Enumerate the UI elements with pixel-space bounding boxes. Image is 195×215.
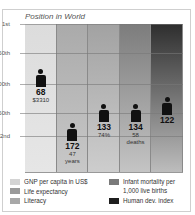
y-tick-label: 1st xyxy=(2,21,10,27)
marker-human-dev-index: 122 xyxy=(151,97,183,125)
column-infant-mortality xyxy=(120,24,152,172)
legend-label-line1: Infant mortality per xyxy=(123,178,175,185)
legend-label-line2: 1,000 live births xyxy=(123,187,175,194)
marker-gnp: 68 $3310 xyxy=(25,69,57,104)
person-icon xyxy=(36,69,46,87)
rank-value: 122 xyxy=(151,116,183,125)
y-tick-label: 50th xyxy=(0,50,10,56)
gridline-1st xyxy=(20,24,183,25)
legend-label: GNP per capita in US$ xyxy=(24,178,88,185)
legend-swatch xyxy=(10,188,20,194)
legend-swatch xyxy=(10,179,20,185)
rank-value: 133 xyxy=(88,123,120,132)
legend-item-literacy: Literacy xyxy=(10,197,46,204)
person-icon xyxy=(67,123,77,141)
y-tick-label: 192nd xyxy=(0,133,10,139)
legend-swatch xyxy=(109,179,119,185)
rank-annotation-unit: years xyxy=(57,158,89,165)
legend-swatch xyxy=(109,198,119,204)
legend-label: Literacy xyxy=(24,197,46,204)
legend-label: Life expectancy xyxy=(24,188,68,195)
y-tick-label: 100th xyxy=(0,81,10,87)
legend-label: Human dev. index xyxy=(123,197,173,204)
legend-swatch xyxy=(10,198,20,204)
marker-life-expectancy: 172 47 years xyxy=(57,123,89,164)
column-literacy xyxy=(88,24,120,172)
plot-area: 1st 50th 100th 150th 192nd 68 $3310 172 … xyxy=(25,24,183,172)
chart-title: Position in World xyxy=(25,12,85,21)
marker-infant-mortality: 134 58 deaths xyxy=(120,104,152,145)
person-icon xyxy=(162,97,172,115)
person-icon xyxy=(99,104,109,122)
marker-literacy: 133 74% xyxy=(88,104,120,139)
rank-annotation: 74% xyxy=(88,132,120,139)
rank-annotation-unit: deaths xyxy=(120,139,152,146)
legend: GNP per capita in US$ Life expectancy Li… xyxy=(10,178,190,210)
rank-annotation: $3310 xyxy=(25,97,57,104)
person-icon xyxy=(131,104,141,122)
rank-value: 172 xyxy=(57,142,89,151)
plot-baseline xyxy=(25,172,183,173)
legend-item-gnp: GNP per capita in US$ xyxy=(10,178,88,185)
legend-item-life-expectancy: Life expectancy xyxy=(10,188,68,195)
y-tick-label: 150th xyxy=(0,110,10,116)
legend-item-human-dev-index: Human dev. index xyxy=(109,197,173,204)
rank-value: 134 xyxy=(120,123,152,132)
gridline-50th xyxy=(20,53,183,54)
legend-item-infant-mortality: Infant mortality per 1,000 live births xyxy=(109,178,175,194)
rank-value: 68 xyxy=(25,88,57,97)
